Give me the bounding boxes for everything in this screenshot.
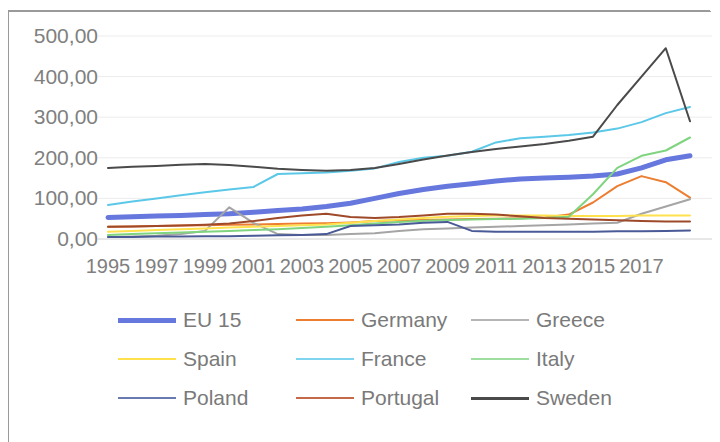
x-axis: 1995199719992001200320052007200920112013… (0, 256, 720, 286)
x-axis-tick-label: 2011 (471, 256, 521, 276)
legend-swatch-line-icon (471, 397, 529, 400)
legend-item-spain[interactable]: Spain (118, 348, 296, 370)
legend-label: Greece (536, 309, 605, 331)
series-line-sweden (108, 48, 690, 171)
x-axis-tick-label: 2001 (229, 256, 279, 276)
x-axis-tick-label: 1997 (132, 256, 182, 276)
legend-item-eu-15[interactable]: EU 15 (118, 309, 296, 331)
x-axis-tick-label: 2015 (568, 256, 618, 276)
legend-swatch-line-icon (471, 358, 529, 360)
y-axis-tick-label: 0,00 (12, 228, 98, 249)
x-axis-tick-label: 2005 (326, 256, 376, 276)
y-axis-tick-label: 100,00 (12, 187, 98, 208)
x-axis-tick-label: 2013 (520, 256, 570, 276)
legend-label: France (361, 348, 426, 370)
legend-item-france[interactable]: France (296, 348, 471, 370)
legend-swatch-line-icon (296, 319, 354, 321)
legend-label: Sweden (536, 387, 612, 409)
x-axis-tick-label: 1995 (83, 256, 133, 276)
legend-row: SpainFranceItaly (118, 344, 618, 374)
legend-row: EU 15GermanyGreece (118, 305, 618, 335)
x-axis-tick-label: 2017 (617, 256, 667, 276)
legend-item-greece[interactable]: Greece (471, 309, 605, 331)
legend-swatch-line-icon (471, 319, 529, 321)
gridlines (98, 36, 712, 239)
legend-row: PolandPortugalSweden (118, 383, 618, 413)
legend-label: Italy (536, 348, 575, 370)
x-axis-tick-label: 2003 (277, 256, 327, 276)
legend-swatch-line-icon (118, 397, 176, 399)
legend-label: Poland (183, 387, 248, 409)
legend-swatch-line-icon (118, 358, 176, 360)
legend-swatch-line-icon (296, 397, 354, 399)
y-axis-tick-label: 400,00 (12, 66, 98, 87)
y-axis-tick-label: 300,00 (12, 106, 98, 127)
legend-item-poland[interactable]: Poland (118, 387, 296, 409)
x-axis-tick-label: 2009 (423, 256, 473, 276)
y-axis: 0,00100,00200,00300,00400,00500,00 (6, 0, 98, 260)
x-axis-tick-label: 2007 (374, 256, 424, 276)
y-axis-tick-label: 500,00 (12, 25, 98, 46)
legend-swatch-line-icon (296, 358, 354, 360)
legend-item-sweden[interactable]: Sweden (471, 387, 612, 409)
legend-label: Spain (183, 348, 237, 370)
legend-label: Germany (361, 309, 447, 331)
legend-label: EU 15 (183, 309, 241, 331)
legend-item-portugal[interactable]: Portugal (296, 387, 471, 409)
y-axis-tick-label: 200,00 (12, 147, 98, 168)
legend-item-italy[interactable]: Italy (471, 348, 575, 370)
chart-legend: EU 15GermanyGreeceSpainFranceItalyPoland… (118, 305, 618, 422)
series-line-france (108, 107, 690, 205)
legend-label: Portugal (361, 387, 439, 409)
legend-swatch-line-icon (118, 318, 176, 323)
legend-item-germany[interactable]: Germany (296, 309, 471, 331)
x-axis-tick-label: 1999 (180, 256, 230, 276)
